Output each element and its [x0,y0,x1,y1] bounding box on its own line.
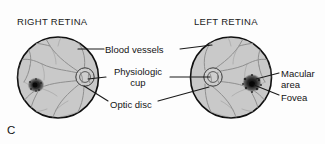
label-optic-disc: Optic disc [110,99,152,110]
right-macular-area [28,78,45,93]
right-optic-disc [76,68,94,86]
left-retina-fundus [191,30,278,120]
right-retina-fundus [12,30,99,120]
right-fovea [33,83,38,88]
label-macular-area-line2: area [281,79,300,90]
left-fovea [249,81,255,87]
label-physiologic-cup-line2: cup [130,77,145,88]
panel-letter: C [7,124,15,136]
label-macular-area: Macular area [281,68,325,90]
label-physiologic-cup: Physiologic cup [108,66,168,88]
label-macular-area-line1: Macular [281,68,315,79]
label-blood-vessels: Blood vessels [105,44,164,55]
label-fovea: Fovea [281,92,307,103]
retina-fundus-figure: RIGHT RETINA LEFT RETINA [0,0,325,144]
label-physiologic-cup-line1: Physiologic [114,66,162,77]
